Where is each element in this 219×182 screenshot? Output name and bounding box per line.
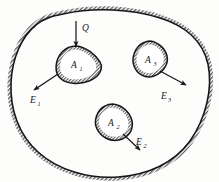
a3-label: A [144, 55, 151, 65]
physics-flux-diagram: A 1 A 2 A 3 Q E 1 [0, 0, 219, 182]
arrow-e3-label: E [160, 91, 167, 101]
a3-label-subscript: 3 [153, 60, 157, 67]
a3-hatch-band [0, 0, 219, 182]
arrow-e3-label-subscript: 3 [167, 96, 171, 103]
inner-region-a3: A 3 [0, 0, 219, 182]
arrow-e2-label: E [135, 137, 142, 147]
arrow-e1-label-subscript: 1 [38, 100, 41, 107]
arrow-q-label: Q [82, 23, 89, 33]
arrow-e1-label: E [29, 95, 36, 105]
figure-container: A 1 A 2 A 3 Q E 1 [0, 0, 219, 182]
